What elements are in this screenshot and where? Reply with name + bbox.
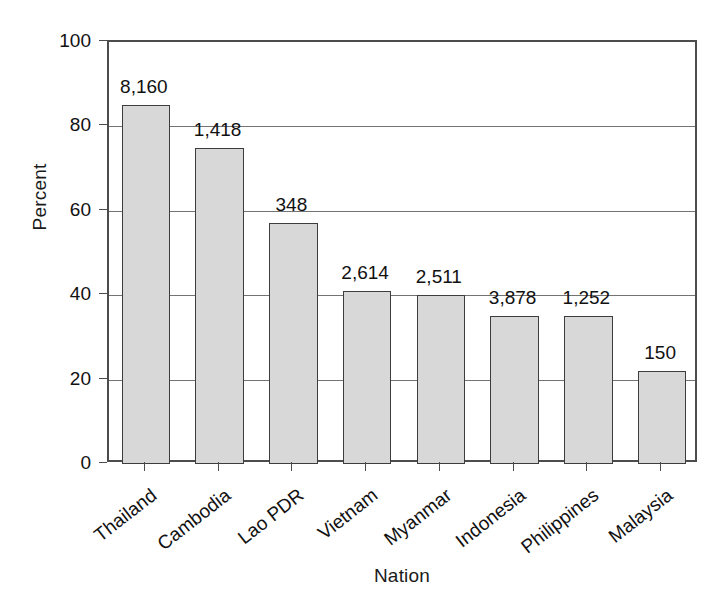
x-axis-tick-mark [144, 462, 145, 471]
y-axis-tick-mark [99, 40, 107, 41]
y-axis-tick-label: 60 [29, 200, 91, 219]
x-axis-tick-mark [586, 462, 587, 471]
x-axis-tick-mark [218, 462, 219, 471]
bar-value-label: 1,418 [158, 120, 278, 139]
y-axis-tick-label: 0 [29, 453, 91, 472]
y-axis-tick-mark [99, 124, 107, 125]
x-axis-tick-mark [513, 462, 514, 471]
bar-value-label: 348 [231, 195, 351, 214]
bar-value-label: 1,252 [526, 288, 646, 307]
bar[interactable] [638, 371, 686, 464]
bar-chart-figure: Percent Nation 0204060801008,160Thailand… [0, 0, 722, 608]
y-axis-tick-label: 40 [29, 284, 91, 303]
x-axis-tick-mark [365, 462, 366, 471]
y-axis-tick-mark [99, 462, 107, 463]
y-axis-tick-mark [99, 293, 107, 294]
y-axis-tick-label: 80 [29, 115, 91, 134]
y-axis-tick-mark [99, 209, 107, 210]
x-axis-tick-mark [660, 462, 661, 471]
x-axis-tick-mark [439, 462, 440, 471]
plot-area [107, 40, 697, 462]
bar[interactable] [490, 316, 538, 464]
bar-value-label: 8,160 [84, 77, 204, 96]
bar[interactable] [122, 105, 170, 464]
y-axis-tick-label: 20 [29, 369, 91, 388]
bar[interactable] [417, 295, 465, 464]
bar-value-label: 2,511 [379, 267, 499, 286]
y-axis-tick-mark [99, 378, 107, 379]
x-axis-category-label: Thailand [0, 485, 160, 608]
x-axis-tick-mark [291, 462, 292, 471]
bar[interactable] [343, 291, 391, 464]
y-axis-title: Percent [29, 127, 51, 267]
bar[interactable] [269, 223, 317, 464]
bar[interactable] [564, 316, 612, 464]
y-axis-tick-label: 100 [29, 31, 91, 50]
bar-value-label: 150 [600, 343, 720, 362]
